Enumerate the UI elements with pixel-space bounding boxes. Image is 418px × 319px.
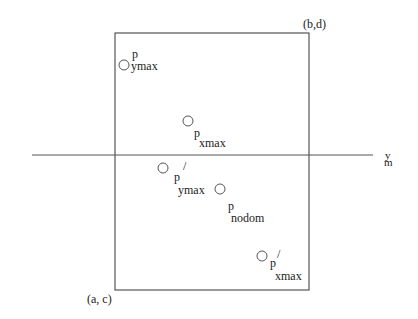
p-ymax-prime-mark: / xyxy=(183,160,186,172)
point-p-xmax-prime-marker xyxy=(257,251,267,261)
point-p-ymax-marker xyxy=(119,60,129,70)
corner-label-bd: (b,d) xyxy=(303,18,326,30)
p-ymax-prime-sub: ymax xyxy=(178,184,205,196)
point-p-nodom-marker xyxy=(215,184,225,194)
p-xmax-prime-base: p xyxy=(270,257,276,269)
ym-label-sub: m xyxy=(384,156,393,168)
p-ymax-prime-base: p xyxy=(174,171,180,183)
point-p-ymax-prime-marker xyxy=(158,163,168,173)
p-nodom-sub: nodom xyxy=(231,212,264,224)
p-xmax-prime-mark: / xyxy=(277,248,280,260)
point-p-xmax-marker xyxy=(183,116,193,126)
corner-label-ac: (a, c) xyxy=(87,293,112,305)
p-xmax-sub: xmax xyxy=(199,137,226,149)
p-ymax-sub: ymax xyxy=(131,60,158,72)
diagram-canvas xyxy=(0,0,418,319)
p-xmax-prime-sub: xmax xyxy=(275,270,302,282)
